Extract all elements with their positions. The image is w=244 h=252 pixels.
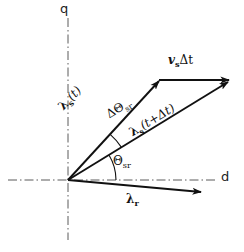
v-s-delta-t-label: vsΔt [168, 54, 193, 69]
v-s-delta-t-symbol: v [168, 53, 175, 67]
lambda-r-arrow [68, 180, 201, 192]
diagram-canvas [0, 0, 244, 252]
v-s-delta-t-arg: Δt [180, 53, 194, 67]
theta-sr-subscript: sr [123, 160, 131, 170]
theta-sr-symbol: Θ [113, 154, 123, 168]
lambda-r-subscript: r [134, 198, 138, 208]
d-axis-label: d [221, 170, 229, 183]
delta-theta-sr-arc [110, 135, 121, 148]
lambda-r-label: λr [126, 193, 139, 208]
q-axis-label: q [60, 2, 68, 15]
vector-arrows [68, 80, 229, 192]
theta-sr-label: Θsr [113, 155, 131, 170]
vector-diagram-figure: q d vsΔt λs(t) ΔΘsr λs(t+Δt) Θsr λr [0, 0, 244, 252]
axis-lines [8, 18, 218, 240]
